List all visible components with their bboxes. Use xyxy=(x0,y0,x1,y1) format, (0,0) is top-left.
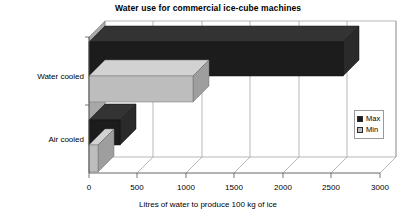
x-tick-label-0: 0 xyxy=(69,183,109,192)
x-tick-label-1000: 1000 xyxy=(166,183,206,192)
bar-water-cooled-min xyxy=(89,60,209,102)
legend-swatch-max-icon xyxy=(357,116,363,122)
x-tick-label-2500: 2500 xyxy=(311,183,351,192)
legend: Max Min xyxy=(354,110,384,139)
x-tick-label-500: 500 xyxy=(117,183,157,192)
category-label-water-cooled: Water cooled xyxy=(0,72,84,81)
x-axis-title: Litres of water to produce 100 kg of ice xyxy=(0,200,416,209)
x-tick-label-3000: 3000 xyxy=(360,183,400,192)
plot-back-wall xyxy=(89,157,396,173)
legend-label-max: Max xyxy=(366,115,380,123)
legend-item-min: Min xyxy=(357,125,380,135)
legend-label-min: Min xyxy=(366,126,378,134)
x-tick-label-1500: 1500 xyxy=(214,183,254,192)
category-label-air-cooled: Air cooled xyxy=(0,135,84,144)
x-axis-ticks xyxy=(89,173,380,178)
y-axis-ticks xyxy=(85,37,89,105)
legend-item-max: Max xyxy=(357,114,380,124)
chart-container: Water use for commercial ice-cube machin… xyxy=(0,0,416,224)
legend-swatch-min-icon xyxy=(357,127,363,133)
x-tick-label-2000: 2000 xyxy=(263,183,303,192)
